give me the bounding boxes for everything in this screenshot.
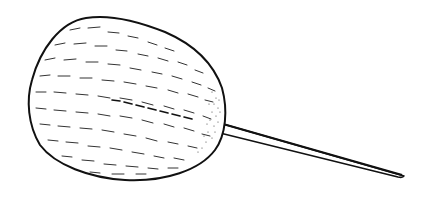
illustration [0, 0, 426, 199]
stick [220, 124, 404, 177]
fuzzy-ball-on-stick-drawing [0, 0, 426, 199]
ball [29, 17, 226, 180]
